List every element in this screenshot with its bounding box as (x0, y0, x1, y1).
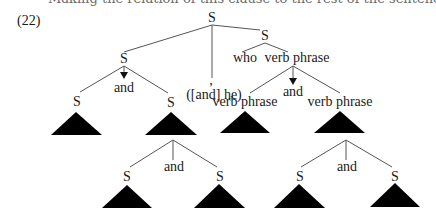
triangle-vp-right (314, 111, 365, 133)
sub1-right-s-label: S (216, 169, 224, 184)
edge-root-right (212, 25, 260, 30)
triangle-sub2-left (274, 184, 325, 208)
triangle-lr (145, 112, 197, 135)
who-label: who (233, 50, 257, 65)
syntax-tree-diagram: (22) S , ([and] he) S who verb phrase an… (0, 0, 436, 221)
comma-label: , (209, 73, 213, 88)
left-and-label: and (114, 80, 134, 95)
left-s-label: S (120, 51, 128, 66)
triangle-sub1-left (102, 185, 152, 208)
sub2-left-s-label: S (296, 169, 304, 184)
triangle-sub2-right (370, 183, 420, 207)
vp-left-label: verb phrase (213, 94, 278, 109)
sub2-and-label: and (337, 159, 357, 174)
vp-right-label: verb phrase (308, 94, 373, 109)
sub1-and-label: and (164, 159, 184, 174)
arrow-down-icon (120, 72, 128, 79)
vp-and-label: and (283, 84, 303, 99)
lr-s-label: S (167, 95, 175, 110)
triangle-vp-left (220, 111, 270, 133)
right-s-label: S (261, 28, 269, 43)
verb-phrase-top-label: verb phrase (265, 50, 330, 65)
root-s-label: S (208, 10, 216, 25)
example-number: (22) (17, 13, 41, 29)
triangle-ll (51, 112, 102, 135)
edge-root-left (124, 25, 212, 52)
sub1-left-s-label: S (123, 169, 131, 184)
sub2-right-s-label: S (391, 169, 399, 184)
triangle-sub1-right (194, 184, 245, 208)
ll-s-label: S (73, 94, 81, 109)
